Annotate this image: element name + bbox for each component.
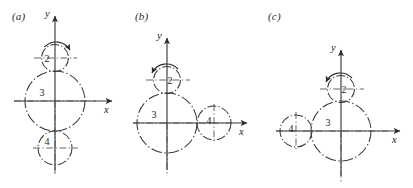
panel-c-gear-3-label: 3 bbox=[326, 117, 331, 128]
panel-a-gear-2-label: 2 bbox=[45, 53, 50, 64]
panel-a-rotation-arrow bbox=[45, 42, 71, 50]
panel-a: (a) bbox=[0, 0, 140, 188]
panel-b-gear-2-label: 2 bbox=[168, 75, 173, 86]
panel-c-drawing bbox=[268, 0, 413, 188]
panel-a-gear-3-label: 3 bbox=[40, 87, 45, 98]
gear-train-figure: (a) bbox=[0, 0, 413, 188]
panel-c-x-axis-label: x bbox=[392, 134, 397, 145]
panel-a-y-axis-label: y bbox=[45, 8, 50, 19]
panel-a-drawing bbox=[0, 0, 140, 188]
panel-b-drawing bbox=[135, 0, 280, 188]
panel-a-gear-4-label: 4 bbox=[45, 136, 50, 147]
panel-b-y-axis-label: y bbox=[157, 30, 162, 41]
panel-b-gear-3-label: 3 bbox=[152, 109, 157, 120]
panel-b-x-axis-label: x bbox=[239, 126, 244, 137]
panel-c: (c) bbox=[268, 0, 413, 188]
panel-c-gear-2-label: 2 bbox=[342, 84, 347, 95]
panel-c-y-axis-label: y bbox=[331, 42, 336, 53]
panel-b-gear-4-label: 4 bbox=[207, 115, 212, 126]
panel-a-x-axis-label: x bbox=[104, 104, 109, 115]
panel-b: (b) bbox=[135, 0, 275, 188]
panel-c-gear-4-label: 4 bbox=[289, 123, 294, 134]
